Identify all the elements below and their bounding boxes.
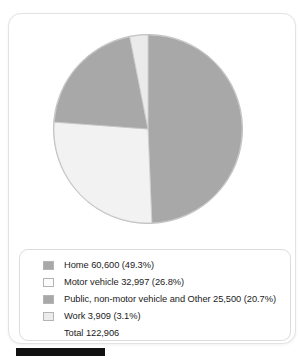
legend-label-public-nonmotor-other: Public, non-motor vehicle and Other 25,5… [64, 294, 276, 305]
figure-card: Home 60,600 (49.3%) Motor vehicle 32,997… [8, 13, 296, 344]
legend-swatch-work [43, 312, 54, 321]
pie-chart [51, 32, 245, 226]
bottom-black-bar [16, 348, 105, 356]
legend-swatch-home [43, 261, 54, 270]
legend-label-total: Total 122,906 [64, 328, 119, 339]
legend-item[interactable]: Home 60,600 (49.3%) [20, 257, 290, 273]
legend-label-motor-vehicle: Motor vehicle 32,997 (26.8%) [64, 277, 184, 288]
pie-slice[interactable] [54, 122, 152, 223]
legend-total-row: Total 122,906 [20, 325, 290, 341]
legend-item[interactable]: Public, non-motor vehicle and Other 25,5… [20, 291, 290, 307]
legend-swatch-spacer [43, 329, 54, 338]
legend-item[interactable]: Work 3,909 (3.1%) [20, 308, 290, 324]
pie-slice[interactable] [148, 35, 242, 223]
legend-item[interactable]: Motor vehicle 32,997 (26.8%) [20, 274, 290, 290]
legend-swatch-public-nonmotor-other [43, 295, 54, 304]
legend-swatch-motor-vehicle [43, 278, 54, 287]
pie-chart-area [9, 14, 297, 236]
legend-label-home: Home 60,600 (49.3%) [64, 260, 154, 271]
pie-slice-group [54, 35, 242, 223]
chart-legend: Home 60,600 (49.3%) Motor vehicle 32,997… [19, 249, 291, 341]
legend-label-work: Work 3,909 (3.1%) [64, 311, 141, 322]
